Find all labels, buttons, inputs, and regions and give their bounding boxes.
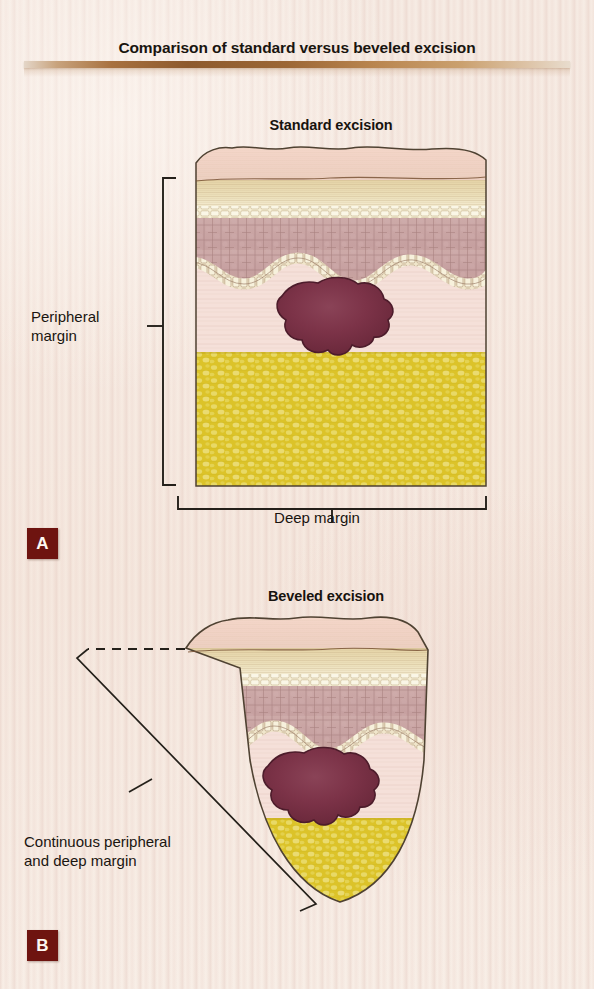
panel-b-badge: B [27, 930, 58, 961]
granular-layer [170, 674, 450, 687]
continuous-margin-label: Continuous peripheral and deep margin [24, 832, 171, 870]
panel-a-specimen [190, 140, 492, 492]
granular-layer [190, 206, 490, 219]
panel-a-badge: A [27, 528, 58, 559]
figure-stage: Comparison of standard versus beveled ex… [0, 0, 594, 989]
panel-b-specimen [170, 610, 450, 928]
deep-margin-label: Deep margin [0, 508, 594, 527]
peripheral-margin-label: Peripheral margin [31, 307, 99, 345]
peripheral-margin-bracket [147, 178, 176, 485]
